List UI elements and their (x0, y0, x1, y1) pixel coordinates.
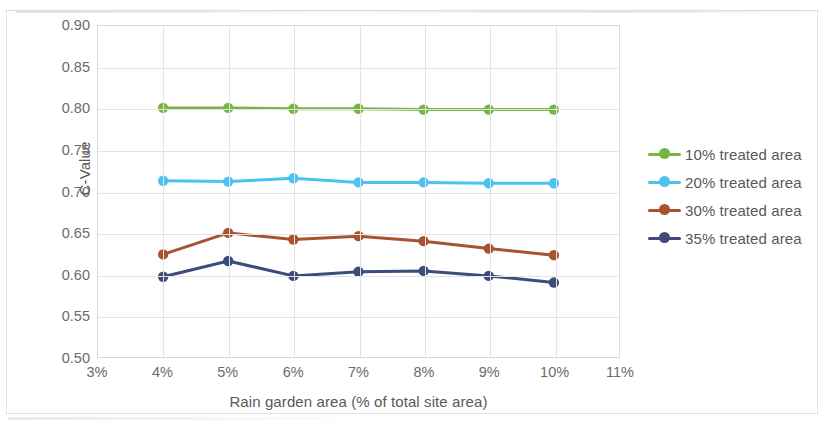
x-axis-tick-label: 8% (394, 364, 454, 380)
plot-area (97, 25, 620, 358)
legend-dot-swatch (659, 232, 670, 243)
y-axis-tick-label: 0.90 (42, 16, 90, 34)
gridline-horizontal (98, 234, 619, 235)
legend-item[interactable]: 10% treated area (648, 142, 820, 166)
gridline-vertical (229, 26, 230, 357)
y-axis-tick-label: 0.55 (42, 307, 90, 325)
gridline-horizontal (98, 109, 619, 110)
gridline-horizontal (98, 151, 619, 152)
x-axis-tick-label: 10% (525, 364, 585, 380)
series-data-point (353, 231, 363, 241)
legend-label: 35% treated area (685, 230, 802, 247)
y-axis-tick-label: 0.80 (42, 99, 90, 117)
chart-legend: 10% treated area20% treated area30% trea… (648, 142, 820, 254)
x-axis-tick-label: 9% (459, 364, 519, 380)
data-series (158, 228, 559, 261)
series-data-point (418, 177, 428, 187)
gridline-vertical (163, 26, 164, 357)
legend-marker-icon (648, 175, 681, 189)
y-axis-tick-label: 0.65 (42, 224, 90, 242)
gridline-horizontal (98, 68, 619, 69)
legend-marker-icon (648, 231, 681, 245)
gridline-horizontal (98, 317, 619, 318)
x-axis-tick-label: 3% (67, 364, 127, 380)
series-layer (98, 26, 619, 357)
gridline-vertical (360, 26, 361, 357)
legend-item[interactable]: 35% treated area (648, 226, 820, 250)
gridline-vertical (490, 26, 491, 357)
legend-item[interactable]: 30% treated area (648, 198, 820, 222)
legend-marker-icon (648, 147, 681, 161)
data-series (158, 256, 559, 288)
x-axis-title: Rain garden area (% of total site area) (97, 393, 620, 410)
gridline-vertical (425, 26, 426, 357)
series-data-point (418, 236, 428, 246)
legend-label: 30% treated area (685, 202, 802, 219)
y-axis-tick-labels: 0.900.850.800.750.700.650.600.550.50 (42, 16, 90, 368)
legend-item[interactable]: 20% treated area (648, 170, 820, 194)
series-data-point (418, 266, 428, 276)
legend-label: 10% treated area (685, 146, 802, 163)
x-axis-tick-label: 6% (263, 364, 323, 380)
y-axis-tick-label: 0.75 (42, 141, 90, 159)
legend-dot-swatch (659, 176, 670, 187)
x-axis-tick-labels: 3%4%5%6%7%8%9%10%11% (97, 364, 620, 386)
y-axis-tick-label: 0.70 (42, 183, 90, 201)
series-data-point (549, 277, 559, 287)
x-axis-tick-label: 7% (329, 364, 389, 380)
gridline-vertical (556, 26, 557, 357)
gridline-horizontal (98, 276, 619, 277)
series-data-point (484, 243, 494, 253)
series-data-point (484, 178, 494, 188)
x-axis-tick-label: 11% (590, 364, 650, 380)
gridline-horizontal (98, 193, 619, 194)
legend-dot-swatch (659, 204, 670, 215)
legend-dot-swatch (659, 148, 670, 159)
series-data-point (549, 250, 559, 260)
legend-label: 20% treated area (685, 174, 802, 191)
y-axis-tick-label: 0.85 (42, 58, 90, 76)
series-data-point (549, 178, 559, 188)
x-axis-tick-label: 4% (132, 364, 192, 380)
x-axis-tick-label: 5% (198, 364, 258, 380)
y-axis-tick-label: 0.60 (42, 266, 90, 284)
data-series (158, 173, 559, 188)
series-data-point (353, 177, 363, 187)
gridline-vertical (294, 26, 295, 357)
legend-marker-icon (648, 203, 681, 217)
line-chart-figure: C-Value 0.900.850.800.750.700.650.600.55… (0, 0, 827, 426)
